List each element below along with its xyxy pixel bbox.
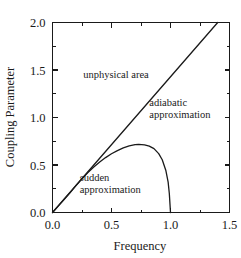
x-tick-label-2: 1.0 [163, 218, 179, 232]
x-tick-label-3: 1.5 [222, 218, 238, 232]
x-tick-label-0: 0.0 [45, 218, 61, 232]
y-tick-label-0: 0.0 [30, 206, 46, 220]
y-tick-label-1: 0.5 [30, 159, 46, 173]
y-tick-label-2: 1.0 [30, 111, 46, 125]
annotation-unphysical-area: unphysical area [83, 69, 149, 80]
y-tick-label-3: 1.5 [30, 64, 46, 78]
chart-figure: 0.00.51.01.50.00.51.01.52.0 unphysical a… [0, 0, 241, 258]
y-axis-title: Coupling Parameter [3, 66, 17, 167]
y-tick-label-4: 2.0 [30, 16, 46, 30]
x-tick-label-1: 0.5 [104, 218, 120, 232]
x-axis-title: Frequency [114, 239, 168, 253]
chart-svg: 0.00.51.01.50.00.51.01.52.0 unphysical a… [0, 0, 241, 258]
